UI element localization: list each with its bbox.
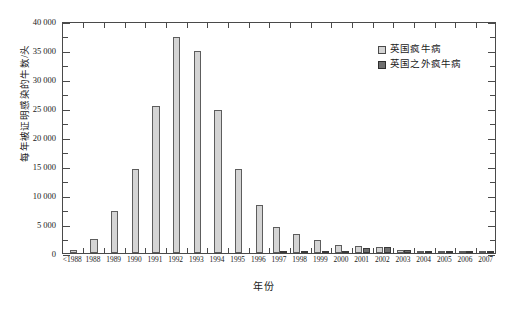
y-axis-minor-tick <box>490 37 495 38</box>
x-axis-tick <box>125 248 126 253</box>
bar-uk <box>376 247 383 253</box>
y-axis-tick <box>488 52 495 53</box>
x-axis-tick <box>228 23 229 28</box>
bar-non-uk <box>446 251 453 253</box>
y-axis-minor-tick <box>63 240 68 241</box>
bar-uk <box>335 245 342 253</box>
bar-non-uk <box>280 251 287 253</box>
x-axis-tick <box>331 248 332 253</box>
y-axis-tick <box>63 110 70 111</box>
y-axis-tick <box>488 168 495 169</box>
x-axis-tick <box>290 23 291 28</box>
x-axis-tick <box>331 23 332 28</box>
y-axis-tick-label: 25 000 <box>0 105 56 114</box>
x-axis-tick <box>435 248 436 253</box>
y-axis-tick <box>63 197 70 198</box>
y-axis-tick <box>488 23 495 24</box>
y-axis-minor-tick <box>490 66 495 67</box>
x-axis-title: 年份 <box>0 278 528 293</box>
bar-non-uk <box>425 251 432 253</box>
x-axis-tick <box>187 23 188 28</box>
y-axis-tick <box>63 168 70 169</box>
x-axis-tick <box>414 23 415 28</box>
bar-uk <box>194 51 201 253</box>
y-axis-minor-tick <box>63 66 68 67</box>
x-axis-tick <box>249 248 250 253</box>
dark-gray-swatch-icon <box>378 61 386 69</box>
bar-uk <box>273 227 280 253</box>
y-axis-tick <box>63 52 70 53</box>
bar-uk <box>173 37 180 253</box>
y-axis-minor-tick <box>490 211 495 212</box>
bar-uk <box>235 169 242 253</box>
y-axis-tick-label: 10 000 <box>0 192 56 201</box>
bar-non-uk <box>404 250 411 253</box>
bar-uk <box>314 240 321 253</box>
y-axis-minor-tick <box>63 182 68 183</box>
x-axis-tick <box>145 248 146 253</box>
x-axis-tick <box>125 23 126 28</box>
bar-uk <box>90 239 97 254</box>
bar-uk <box>355 246 362 253</box>
bar-uk <box>479 251 486 253</box>
x-axis-tick <box>290 248 291 253</box>
x-axis-tick <box>269 23 270 28</box>
x-axis-tick <box>352 23 353 28</box>
x-axis-tick <box>207 248 208 253</box>
y-axis-tick <box>488 139 495 140</box>
bar-uk <box>293 234 300 253</box>
x-axis-tick <box>104 248 105 253</box>
y-axis-minor-tick <box>490 124 495 125</box>
bar-uk <box>214 110 221 253</box>
x-axis-tick <box>373 248 374 253</box>
x-axis-tick <box>476 248 477 253</box>
bar-uk <box>111 211 118 253</box>
bar-non-uk <box>487 251 494 253</box>
bar-uk <box>256 205 263 253</box>
y-axis-minor-tick <box>490 95 495 96</box>
x-axis-tick <box>476 23 477 28</box>
bar-uk <box>459 251 466 253</box>
x-axis-tick <box>393 23 394 28</box>
legend-item-non-uk: 英国之外疯牛病 <box>378 57 461 72</box>
x-axis-tick <box>311 248 312 253</box>
legend-label-non-uk: 英国之外疯牛病 <box>390 57 461 72</box>
y-axis-tick <box>488 110 495 111</box>
bar-non-uk <box>342 251 349 253</box>
bar-uk <box>397 250 404 253</box>
y-axis-tick <box>63 81 70 82</box>
x-axis-tick <box>228 248 229 253</box>
y-axis-minor-tick <box>490 153 495 154</box>
x-axis-tick <box>352 248 353 253</box>
x-axis-tick <box>311 23 312 28</box>
x-axis-tick-labels: <198819881989199019911992199319941995199… <box>62 256 496 270</box>
y-axis-tick <box>63 226 70 227</box>
y-axis-tick <box>488 226 495 227</box>
x-axis-tick <box>207 23 208 28</box>
x-axis-tick <box>414 248 415 253</box>
x-axis-tick <box>393 248 394 253</box>
legend-label-uk: 英国疯牛病 <box>390 42 441 57</box>
x-axis-tick <box>83 23 84 28</box>
y-axis-tick <box>488 81 495 82</box>
y-axis-tick-label: 5 000 <box>0 221 56 230</box>
y-axis-minor-tick <box>63 37 68 38</box>
y-axis-tick <box>63 139 70 140</box>
bar-non-uk <box>301 251 308 253</box>
bar-uk <box>70 250 77 253</box>
y-axis-minor-tick <box>63 95 68 96</box>
bar-uk <box>438 251 445 253</box>
x-axis-tick <box>166 248 167 253</box>
x-axis-tick <box>455 23 456 28</box>
bar-uk <box>132 169 139 253</box>
x-axis-tick <box>145 23 146 28</box>
bar-uk <box>152 106 159 253</box>
x-axis-tick <box>455 248 456 253</box>
y-axis-tick <box>488 197 495 198</box>
bar-uk <box>417 251 424 253</box>
x-axis-tick <box>249 23 250 28</box>
y-axis-minor-tick <box>63 124 68 125</box>
bar-non-uk <box>322 251 329 253</box>
y-axis-minor-tick <box>490 240 495 241</box>
x-axis-tick <box>83 248 84 253</box>
